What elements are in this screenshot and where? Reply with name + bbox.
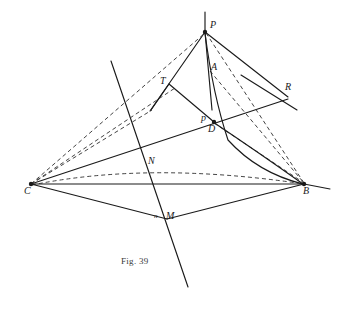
T-to-arrowtip	[151, 84, 169, 110]
point-label-D: D	[208, 124, 215, 134]
solid-line-group	[31, 12, 330, 287]
point-label-R: R	[285, 82, 291, 92]
point-label-P: P	[210, 20, 216, 30]
figure-canvas: PATRpDNCBnM Fig. 39	[0, 0, 350, 309]
C-N-B-dashed-arc	[32, 173, 304, 185]
point-label-A: A	[211, 62, 217, 72]
C-to-D-extended-R	[31, 99, 288, 184]
C-to-P	[31, 33, 205, 184]
P-to-R-line	[205, 32, 288, 97]
C-to-T-ray	[31, 88, 175, 184]
vertex-dot-group	[29, 30, 306, 186]
point-label-T: T	[160, 76, 166, 86]
C-to-arrow-ray	[31, 110, 152, 184]
point-label-B: B	[303, 186, 309, 196]
geometry-diagram	[0, 0, 350, 309]
C-to-M	[31, 184, 167, 219]
M-to-B	[167, 184, 304, 219]
T-to-D	[169, 84, 214, 122]
point-label-C: C	[24, 186, 31, 196]
point-label-p: p	[201, 113, 206, 123]
P-to-B-dash	[206, 33, 304, 183]
point-label-N: N	[148, 156, 155, 166]
D-to-B-curve	[213, 122, 303, 184]
dashed-curve-group	[32, 173, 304, 185]
P-A-D-B-curve	[205, 33, 303, 184]
figure-caption: Fig. 39	[121, 256, 149, 266]
dashed-line-group	[31, 33, 304, 184]
solid-curve-group	[205, 33, 303, 184]
point-label-n: n	[154, 213, 158, 220]
vertex-dot-P	[203, 30, 207, 34]
point-label-M: M	[166, 211, 174, 221]
